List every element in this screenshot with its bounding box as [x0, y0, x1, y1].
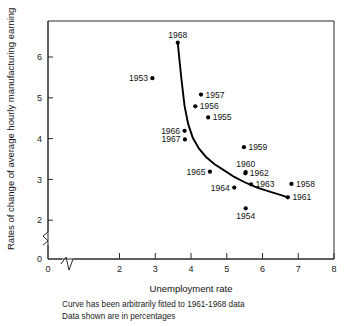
x-tick-label: 2 — [117, 264, 122, 274]
data-label-1962: 1962 — [250, 168, 269, 178]
data-point-1954 — [244, 206, 248, 210]
data-label-1954: 1954 — [236, 211, 255, 221]
data-label-1953: 1953 — [129, 73, 148, 83]
data-point-1963 — [249, 182, 253, 186]
y-tick-label: 5 — [37, 93, 42, 103]
x-tick-label: 4 — [188, 264, 193, 274]
data-label-1959: 1959 — [248, 142, 267, 152]
y-tick-label: 4 — [37, 134, 42, 144]
y-axis-title: Rates of change of average hourly manufa… — [5, 8, 16, 250]
phillips-curve-chart: 023456 02345678 196819531957195619551966… — [0, 0, 353, 326]
chart-container: 023456 02345678 196819531957195619551966… — [0, 0, 353, 326]
data-point-1967 — [183, 137, 187, 141]
data-label-1955: 1955 — [213, 112, 232, 122]
data-label-1968: 1968 — [168, 30, 187, 40]
data-point-1961 — [286, 195, 290, 199]
data-point-1958 — [289, 182, 293, 186]
x-tick-label: 3 — [153, 264, 158, 274]
data-point-1968 — [176, 41, 180, 45]
data-label-1964: 1964 — [211, 183, 230, 193]
x-tick-label: 6 — [260, 264, 265, 274]
x-tick-label: 8 — [331, 264, 336, 274]
data-point-1959 — [242, 145, 246, 149]
data-label-1956: 1956 — [200, 101, 219, 111]
data-point-1955 — [206, 115, 210, 119]
data-point-1957 — [199, 92, 203, 96]
caption-line-1: Curve has been arbitrarily fitted to 196… — [62, 300, 245, 309]
data-label-1961: 1961 — [292, 192, 311, 202]
y-tick-label: 2 — [37, 215, 42, 225]
x-tick-label: 5 — [224, 264, 229, 274]
x-tick-label: 0 — [45, 264, 50, 274]
data-point-1956 — [193, 104, 197, 108]
data-label-1965: 1965 — [187, 167, 206, 177]
data-point-1966 — [182, 129, 186, 133]
data-label-1958: 1958 — [296, 179, 315, 189]
x-tick-label: 7 — [296, 264, 301, 274]
data-point-1964 — [232, 185, 236, 189]
y-tick-label: 6 — [37, 52, 42, 62]
data-label-1967: 1967 — [161, 134, 180, 144]
data-point-1965 — [208, 170, 212, 174]
data-point-1953 — [150, 76, 154, 80]
chart-background — [0, 0, 353, 326]
caption-line-2: Data shown are in percentages — [62, 312, 175, 321]
x-axis-title: Unemployment rate — [150, 283, 233, 294]
data-label-1963: 1963 — [256, 179, 275, 189]
data-label-1957: 1957 — [206, 90, 225, 100]
data-point-1962 — [243, 171, 247, 175]
y-tick-label: 0 — [37, 254, 42, 264]
y-tick-label: 3 — [37, 175, 42, 185]
